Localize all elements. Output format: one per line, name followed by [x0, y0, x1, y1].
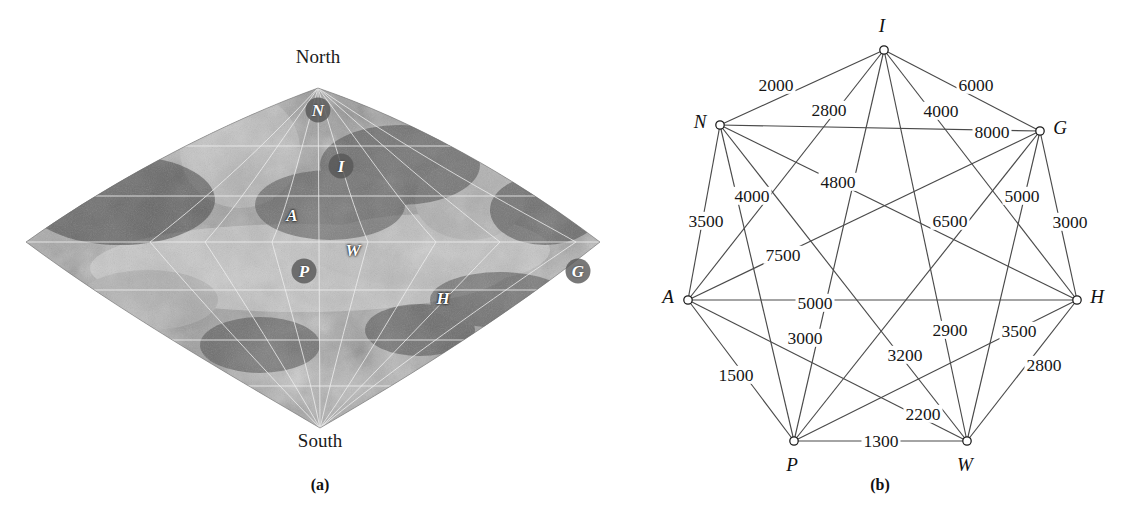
edge-weight-A-H: 5000	[796, 294, 835, 312]
panel-a-map: North South N I A W P H G (a)	[0, 0, 620, 520]
map-site-N[interactable]: N	[306, 98, 331, 123]
graph-node-P[interactable]	[790, 437, 798, 445]
graph-node-A[interactable]	[684, 296, 692, 304]
graph-node-label-A: A	[662, 286, 674, 308]
edge-weight-A-G: 3500	[1000, 322, 1039, 340]
graph-node-I[interactable]	[880, 46, 888, 54]
map-site-G[interactable]: G	[566, 259, 591, 284]
edge-weight-G-W: 5000	[1003, 187, 1042, 205]
graph-node-H[interactable]	[1073, 296, 1081, 304]
caption-b: (b)	[870, 476, 890, 494]
graph-node-N[interactable]	[716, 121, 724, 129]
edge-weight-P-H: 2800	[1025, 356, 1064, 374]
edge-weight-I-H: 3200	[886, 346, 925, 364]
edge-weight-N-I: 2000	[757, 76, 796, 94]
edge-weight-N-A: 3500	[687, 212, 726, 230]
graph-edge-N-I[interactable]	[720, 50, 884, 125]
graph-node-label-G: G	[1053, 117, 1067, 139]
edge-weight-P-W: 1300	[862, 432, 901, 450]
edge-weight-G-H: 3000	[1051, 213, 1090, 231]
map-site-H[interactable]: H	[431, 286, 456, 311]
edge-weight-I-W: 4000	[922, 102, 961, 120]
map-site-W[interactable]: W	[341, 238, 366, 263]
edge-weight-N-G: 8000	[973, 123, 1012, 141]
graph-node-label-I: I	[879, 15, 885, 37]
edge-weight-N-H: 4800	[819, 173, 858, 191]
graph-node-G[interactable]	[1036, 127, 1044, 135]
graph-node-label-N: N	[694, 111, 707, 133]
figure-root: North South N I A W P H G (a) 2000280060…	[0, 0, 1127, 520]
map-south-label: South	[298, 430, 342, 452]
edge-weight-A-P: 1500	[717, 366, 756, 384]
graph-node-W[interactable]	[963, 437, 971, 445]
edge-weight-N-W: 7500	[764, 246, 803, 264]
edge-weight-G-P: 2900	[931, 321, 970, 339]
map-site-A[interactable]: A	[280, 203, 305, 228]
graph-node-label-W: W	[957, 454, 973, 476]
edge-weight-W-H: 2200	[904, 405, 943, 423]
edge-weight-I-P: 2800	[810, 101, 849, 119]
caption-a: (a)	[311, 476, 330, 494]
graph-node-layer	[684, 46, 1081, 445]
map-site-I[interactable]: I	[329, 154, 354, 179]
edge-weight-I-G: 6000	[957, 76, 996, 94]
map-site-P[interactable]: P	[292, 259, 317, 284]
graph-node-label-H: H	[1090, 286, 1104, 308]
panel-b-graph: 2000280060004000800035004000480075006500…	[600, 0, 1127, 520]
graph-node-label-P: P	[786, 454, 798, 476]
edge-weight-A-I: 6500	[931, 212, 970, 230]
edge-weight-N-P: 4000	[733, 187, 772, 205]
map-north-label: North	[296, 46, 340, 68]
edge-weight-A-W: 3000	[786, 329, 825, 347]
